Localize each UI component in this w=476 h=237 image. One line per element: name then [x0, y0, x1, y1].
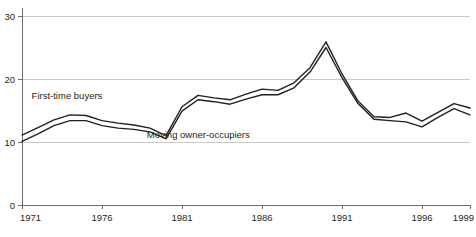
- tick-marks-group: [18, 16, 470, 209]
- y-tick-label-10: 10: [4, 137, 15, 148]
- x-tick-label-1976: 1976: [91, 212, 112, 223]
- y-axis-labels: 0102030: [4, 11, 15, 211]
- y-tick-label-20: 20: [4, 74, 15, 85]
- x-tick-label-1991: 1991: [331, 212, 352, 223]
- x-tick-label-1981: 1981: [171, 212, 192, 223]
- x-tick-label-1971: 1971: [20, 212, 41, 223]
- chart-container: 0102030 1971197619811986199119961999 Fir…: [0, 0, 476, 237]
- series-label-2: Moving owner-occupiers: [147, 129, 250, 140]
- gridlines-group: [22, 16, 470, 142]
- axes-group: [22, 8, 470, 205]
- y-tick-label-30: 30: [4, 11, 15, 22]
- x-axis-labels: 1971197619811986199119961999: [20, 212, 474, 223]
- series-label-1: First-time buyers: [32, 90, 103, 101]
- x-tick-label-1999: 1999: [453, 212, 474, 223]
- line-chart: 0102030 1971197619811986199119961999 Fir…: [0, 0, 476, 237]
- series-annotations: First-time buyersMoving owner-occupiers: [32, 90, 250, 141]
- x-tick-label-1996: 1996: [411, 212, 432, 223]
- x-tick-label-1986: 1986: [251, 212, 272, 223]
- y-tick-label-0: 0: [10, 200, 15, 211]
